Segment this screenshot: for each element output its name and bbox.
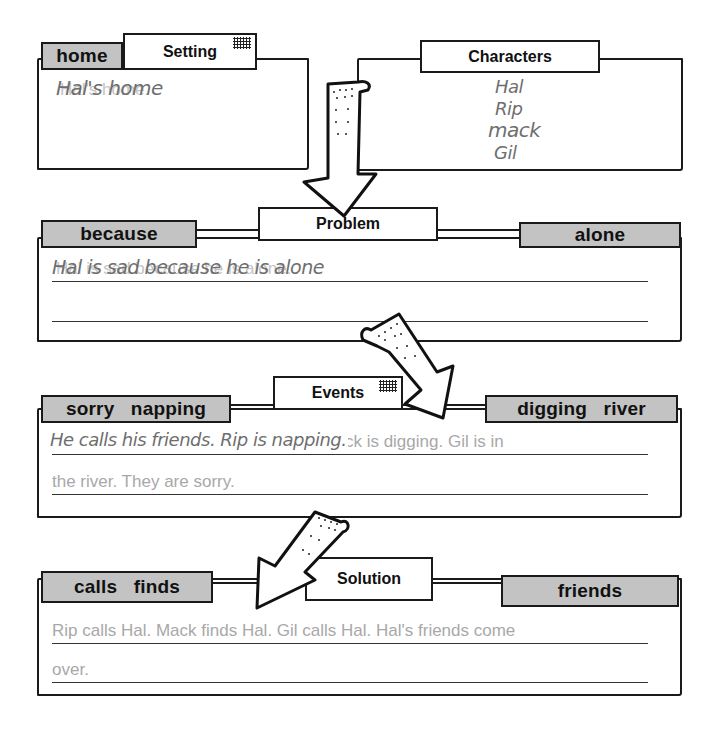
- events-word-sorry-napping: sorry napping: [41, 395, 231, 423]
- flow-arrow-diagonal-right-icon: [355, 310, 470, 420]
- solution-word-calls-finds: calls finds: [41, 571, 213, 603]
- characters-title: Characters: [420, 40, 600, 73]
- setting-box: [37, 58, 309, 170]
- characters-handwritten-3[interactable]: mack: [488, 118, 540, 142]
- setting-title: Setting: [123, 33, 257, 70]
- problem-handwritten-answer[interactable]: Hal is sad because he is alone: [52, 256, 324, 278]
- answer-line-2: [52, 494, 648, 495]
- solution-typed-line-1: Rip calls Hal. Mack finds Hal. Gil calls…: [52, 621, 515, 641]
- setting-title-label: Setting: [163, 43, 217, 61]
- answer-line-1: [52, 643, 648, 644]
- characters-handwritten-1[interactable]: Hal: [495, 76, 523, 97]
- solution-word-friends: friends: [501, 575, 679, 607]
- problem-word-because: because: [41, 220, 197, 248]
- answer-line-2: [52, 682, 648, 683]
- setting-word-home: home: [41, 42, 123, 70]
- characters-handwritten-4[interactable]: Gil: [494, 142, 516, 163]
- setting-handwritten-answer[interactable]: Hal's home: [56, 76, 163, 100]
- problem-word-alone: alone: [519, 222, 681, 248]
- answer-line-2: [52, 321, 648, 322]
- flow-arrow-down-icon: [300, 78, 390, 218]
- characters-title-label: Characters: [468, 48, 552, 66]
- events-typed-line-2: the river. They are sorry.: [52, 472, 235, 492]
- answer-line-1: [52, 281, 648, 282]
- events-word-digging-river: digging river: [485, 395, 678, 423]
- answer-line-1: [52, 454, 648, 455]
- flow-arrow-diagonal-left-icon: [245, 500, 355, 610]
- characters-handwritten-2[interactable]: Rip: [495, 98, 522, 119]
- solution-typed-line-2: over.: [52, 660, 89, 680]
- events-box: [37, 408, 682, 518]
- events-handwritten-answer[interactable]: He calls his friends. Rip is napping.: [50, 429, 348, 450]
- stipple-decoration-icon: [233, 37, 251, 49]
